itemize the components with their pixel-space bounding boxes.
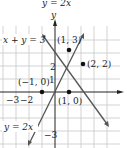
tick-x-neg3: −3 (6, 95, 20, 105)
point-label-1-3: (1, 3) (57, 35, 81, 45)
point-2-2 (81, 62, 86, 67)
point-label-1-0: (1, 0) (58, 96, 82, 106)
cropped-title: y = 2x (41, 0, 71, 8)
x-axis-arrow-icon (117, 90, 124, 94)
y-axis-label: y (50, 10, 57, 20)
tick-x-neg2: −2 (20, 95, 33, 105)
point-1-3 (67, 48, 72, 53)
point-label-2-2: (2, 2) (87, 59, 111, 69)
tick-y-1: 1 (49, 75, 55, 85)
point-neg1-0 (40, 90, 45, 95)
points (40, 48, 86, 95)
line-label-y-2x: y = 2x (3, 122, 33, 132)
point-label-neg1-0: (−1, 0) (18, 77, 50, 87)
tick-y-neg3: −3 (44, 130, 58, 140)
line-label-x-plus-y: x + y = 3 (3, 35, 46, 45)
coordinate-plane: y = 2x y x + y = 3 y = 2x (1, 3) (2, 2) … (0, 0, 127, 148)
point-1-0 (67, 90, 72, 95)
tick-y-2: 2 (50, 62, 56, 72)
y-axis-arrow-icon (53, 19, 57, 26)
